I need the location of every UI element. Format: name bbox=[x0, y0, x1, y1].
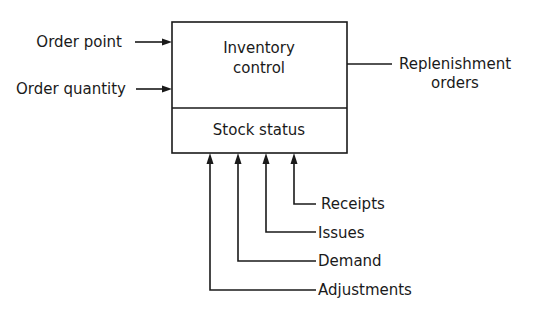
replenishment-orders-output: Replenishment orders bbox=[347, 55, 511, 92]
adjustments-label: Adjustments bbox=[318, 281, 412, 299]
receipts-input: Receipts bbox=[291, 153, 386, 213]
arrow-up-icon bbox=[207, 153, 214, 164]
order-quantity-input: Order quantity bbox=[16, 80, 172, 98]
order-quantity-label: Order quantity bbox=[16, 80, 126, 98]
arrow-up-icon bbox=[235, 153, 242, 164]
demand-connector bbox=[238, 160, 316, 261]
order-point-label: Order point bbox=[36, 33, 122, 51]
adjustments-connector bbox=[210, 160, 316, 290]
inventory-control-block: Inventory control Stock status bbox=[172, 22, 347, 153]
control-label: control bbox=[233, 59, 285, 77]
issues-label: Issues bbox=[318, 224, 365, 242]
inventory-label: Inventory bbox=[223, 39, 295, 57]
arrow-up-icon bbox=[291, 153, 298, 164]
arrow-right-icon bbox=[162, 86, 172, 93]
demand-label: Demand bbox=[318, 252, 382, 270]
order-point-input: Order point bbox=[36, 33, 172, 51]
receipts-label: Receipts bbox=[321, 195, 385, 213]
inventory-control-diagram: Inventory control Stock status Order poi… bbox=[0, 0, 535, 317]
arrow-up-icon bbox=[263, 153, 270, 164]
replenishment-label: Replenishment bbox=[399, 55, 511, 73]
issues-connector bbox=[266, 160, 316, 232]
arrow-right-icon bbox=[162, 39, 172, 46]
receipts-connector bbox=[294, 160, 316, 204]
orders-label: orders bbox=[431, 74, 479, 92]
stock-status-label: Stock status bbox=[213, 121, 306, 139]
